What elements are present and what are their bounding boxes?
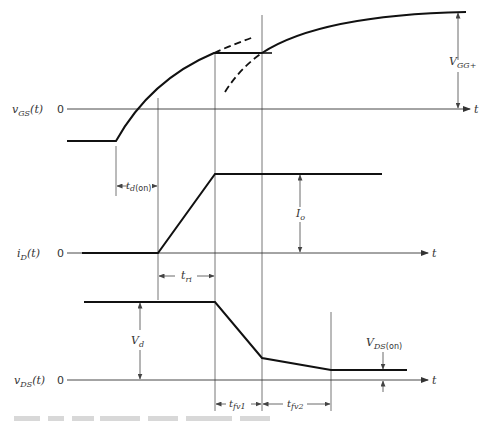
interval-t-fv2: tfv2 bbox=[263, 398, 330, 411]
t-ri-label: tri bbox=[181, 269, 192, 284]
switching-waveform-diagram: vGS(t) 0 t VGG+ td(on) iD(t) 0 t bbox=[0, 0, 494, 422]
id-t-label: t bbox=[432, 247, 437, 260]
vds-panel: vDS(t) 0 t Vd VDS(on) bbox=[14, 302, 437, 392]
vds-zero-label: 0 bbox=[57, 374, 64, 387]
vgs-dashed-upper bbox=[214, 37, 254, 53]
t-fv1-label: tfv1 bbox=[229, 398, 246, 411]
vgs-waveform bbox=[67, 53, 262, 141]
interval-td-on: td(on) bbox=[117, 180, 157, 193]
vgs-zero-label: 0 bbox=[57, 103, 64, 116]
id-axis-label: iD(t) bbox=[17, 247, 40, 262]
vgs-axis-label: vGS(t) bbox=[12, 103, 43, 118]
vds-t-label: t bbox=[432, 374, 437, 387]
vgg-label: VGG+ bbox=[449, 55, 476, 70]
vgs-panel: vGS(t) 0 t VGG+ bbox=[12, 12, 479, 141]
interval-t-fv1: tfv1 bbox=[216, 398, 261, 411]
vdson-label: VDS(on) bbox=[366, 336, 402, 351]
id-zero-label: 0 bbox=[57, 247, 64, 260]
t-fv2-label: tfv2 bbox=[287, 398, 304, 411]
vgs-dashed-lower bbox=[225, 53, 262, 92]
io-label: Io bbox=[295, 207, 305, 222]
id-panel: iD(t) 0 t Io bbox=[17, 174, 437, 262]
interval-t-ri: tri bbox=[159, 269, 214, 284]
vds-axis-label: vDS(t) bbox=[14, 374, 45, 389]
td-on-label: td(on) bbox=[126, 180, 151, 193]
vgs-waveform-rise bbox=[262, 12, 466, 53]
vd-label: Vd bbox=[131, 334, 144, 349]
caption-remnant bbox=[14, 416, 270, 421]
vgs-t-label: t bbox=[474, 103, 479, 116]
